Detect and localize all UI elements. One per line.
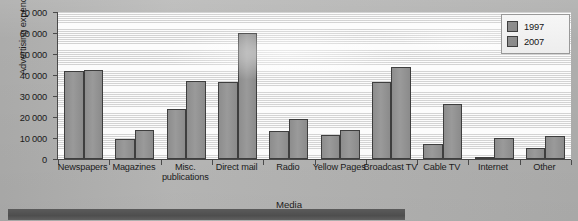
- y-axis-tick: 40 000: [53, 75, 58, 76]
- scanned-page: Advertising expenditure ($m) 010 00020 0…: [0, 0, 578, 221]
- bar: [289, 119, 309, 159]
- bar: [423, 144, 443, 159]
- y-axis-tick-label: 0: [42, 155, 47, 165]
- y-axis-tick-label: 60 000: [20, 29, 47, 39]
- y-axis-tick: 10 000: [53, 138, 58, 139]
- y-axis-tick-label: 20 000: [20, 113, 47, 123]
- y-axis-tick-label: 40 000: [20, 71, 47, 81]
- bar: [238, 33, 258, 159]
- bar: [84, 70, 104, 159]
- plot-area: 010 00020 00030 00040 00050 00060 00070 …: [57, 12, 571, 160]
- bar: [443, 104, 463, 159]
- y-axis-tick: 50 000: [53, 54, 58, 55]
- legend-label: 1997: [524, 22, 544, 32]
- y-axis-tick-label: 10 000: [20, 134, 47, 144]
- bar: [494, 138, 514, 159]
- bar: [340, 130, 360, 159]
- y-axis-tick: 20 000: [53, 117, 58, 118]
- y-axis-tick-label: 30 000: [20, 92, 47, 102]
- legend-swatch-icon: [507, 36, 518, 47]
- bar: [391, 67, 411, 159]
- bar: [372, 82, 392, 159]
- bar: [475, 157, 495, 159]
- y-axis-tick: 70 000: [53, 12, 58, 13]
- y-axis-tick-label: 50 000: [20, 50, 47, 60]
- bar: [167, 109, 187, 159]
- legend-swatch-icon: [507, 21, 518, 32]
- bar: [135, 130, 155, 159]
- chart-legend: 1997 2007: [501, 14, 570, 54]
- bar: [115, 139, 135, 159]
- bar: [218, 82, 238, 159]
- bar: [269, 131, 289, 159]
- scan-edge-artifact: [8, 209, 405, 220]
- bar: [64, 71, 84, 159]
- legend-item-1997: 1997: [507, 19, 565, 34]
- x-axis-category-label: Other: [513, 162, 576, 172]
- y-axis-tick: 60 000: [53, 33, 58, 34]
- bar: [545, 136, 565, 159]
- legend-item-2007: 2007: [507, 34, 565, 49]
- bar: [526, 148, 546, 159]
- y-axis-tick-label: 70 000: [20, 8, 47, 18]
- bar: [186, 81, 206, 159]
- bar: [321, 135, 341, 159]
- y-axis-tick: 30 000: [53, 96, 58, 97]
- legend-label: 2007: [524, 37, 544, 47]
- bar-chart-figure: Advertising expenditure ($m) 010 00020 0…: [0, 0, 578, 198]
